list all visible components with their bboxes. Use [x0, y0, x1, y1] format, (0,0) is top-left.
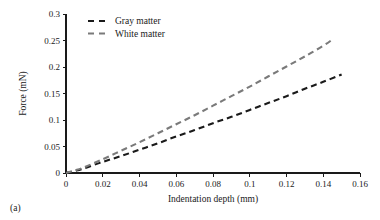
x-tick-label: 0.08	[205, 179, 221, 189]
y-tick-label: 0	[56, 168, 61, 178]
x-tick-label: 0.14	[315, 179, 331, 189]
y-tick-label: 0.3	[49, 9, 61, 19]
y-tick-label: 0.1	[49, 115, 60, 125]
x-axis-title: Indentation depth (mm)	[168, 194, 258, 205]
x-tick-label: 0.04	[132, 179, 148, 189]
y-tick-label: 0.15	[44, 89, 60, 99]
y-axis-title: Force (mN)	[18, 71, 29, 116]
legend-label-gray-matter: Gray matter	[115, 16, 161, 26]
x-tick-label: 0.1	[244, 179, 255, 189]
series-line-white-matter	[66, 39, 332, 173]
legend-label-white-matter: White matter	[115, 29, 166, 39]
line-chart: 00.050.10.150.20.250.300.020.040.060.080…	[0, 0, 380, 220]
y-tick-label: 0.2	[49, 62, 60, 72]
x-tick-label: 0.06	[168, 179, 184, 189]
x-tick-label: 0.12	[279, 179, 295, 189]
subfigure-label: (a)	[10, 203, 21, 214]
y-tick-label: 0.05	[44, 142, 60, 152]
x-tick-label: 0	[64, 179, 69, 189]
y-tick-label: 0.25	[44, 36, 60, 46]
x-tick-label: 0.02	[95, 179, 111, 189]
x-tick-label: 0.16	[352, 179, 368, 189]
figure-panel: 00.050.10.150.20.250.300.020.040.060.080…	[0, 0, 380, 220]
